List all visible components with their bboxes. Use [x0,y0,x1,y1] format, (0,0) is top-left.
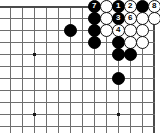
grid-line-horizontal-6 [0,78,155,79]
stone-black-move-3: 3 [112,12,125,25]
move-number-label: 3 [116,14,120,22]
move-number-label: 4 [116,26,120,34]
stone-black [112,48,125,61]
move-number-label: 8 [152,2,156,10]
stone-black [88,24,101,37]
grid-line-horizontal-8 [0,102,155,103]
go-board-diagram: 7128364 [0,0,160,133]
stone-white-move-8: 8 [148,0,161,13]
stone-black [136,0,149,13]
star-point-left-upper [33,53,36,56]
stone-white [124,24,137,37]
move-number-label: 2 [128,2,132,10]
grid-line-horizontal-7 [0,90,155,91]
stone-black [112,72,125,85]
stone-white-move-2: 2 [124,0,137,13]
stone-black-move-1: 1 [112,0,125,13]
stone-white [124,36,137,49]
stone-white [136,36,149,49]
stone-black [64,24,77,37]
stone-black [88,36,101,49]
stone-white [100,0,113,13]
stone-black-move-7: 7 [88,0,101,13]
stone-white [148,12,161,25]
stone-black [88,12,101,25]
stone-white [136,24,149,37]
grid-line-horizontal-5 [0,66,155,67]
star-point-right-lower [117,113,120,116]
grid-line-horizontal-10 [0,126,155,127]
stone-black [124,48,137,61]
stone-white [100,24,113,37]
move-number-label: 1 [116,2,120,10]
stone-white [100,12,113,25]
stone-black [112,36,125,49]
move-number-label: 6 [128,14,132,22]
stone-white-move-4: 4 [112,24,125,37]
grid-line-horizontal-9 [0,114,155,115]
move-number-label: 7 [92,2,96,10]
stone-white [136,12,149,25]
stone-white-move-6: 6 [124,12,137,25]
star-point-left-lower [33,113,36,116]
